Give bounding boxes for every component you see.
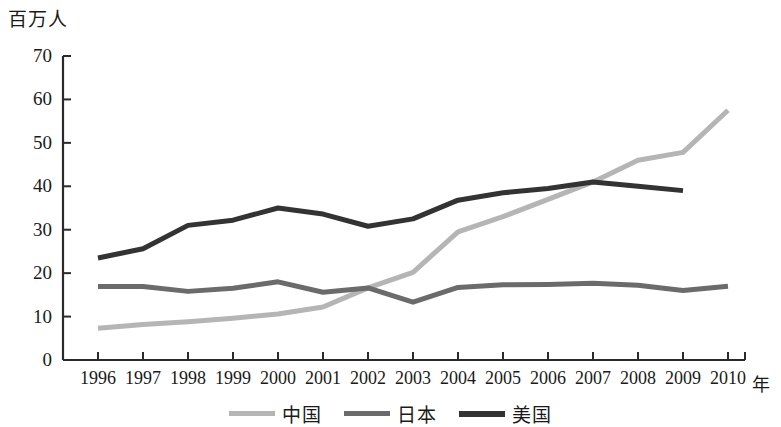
- legend-label: 日本: [397, 400, 437, 427]
- legend-swatch-icon: [459, 411, 505, 417]
- x-axis-tick-label: 2002: [345, 368, 391, 389]
- x-axis-tick-label: 2004: [435, 368, 481, 389]
- x-axis-tick-label: 1998: [165, 368, 211, 389]
- legend-item: 日本: [344, 400, 437, 427]
- y-axis-tick-label: 60: [8, 88, 52, 110]
- x-axis-tick-label: 1999: [210, 368, 256, 389]
- y-axis-tick-label: 0: [8, 349, 52, 371]
- x-axis-tick-label: 2005: [480, 368, 526, 389]
- x-axis-tick-label: 2009: [660, 368, 706, 389]
- x-axis-tick-label: 1997: [120, 368, 166, 389]
- x-axis-tick-label: 2007: [570, 368, 616, 389]
- plot-area: [0, 0, 781, 427]
- chart-legend: 中国日本美国: [0, 400, 781, 427]
- line-chart: 百万人 年 010203040506070 199619971998199920…: [0, 0, 781, 427]
- x-axis-tick-label: 2001: [300, 368, 346, 389]
- y-axis-tick-label: 50: [8, 132, 52, 154]
- y-axis-tick-label: 30: [8, 219, 52, 241]
- series-line-日本: [98, 282, 728, 302]
- x-axis-tick-label: 1996: [75, 368, 121, 389]
- x-axis-tick-label: 2008: [615, 368, 661, 389]
- series-line-美国: [98, 182, 683, 258]
- legend-item: 美国: [459, 400, 552, 427]
- y-axis-tick-label: 70: [8, 45, 52, 67]
- x-axis-tick-label: 2003: [390, 368, 436, 389]
- legend-label: 中国: [282, 400, 322, 427]
- x-axis-tick-label: 2000: [255, 368, 301, 389]
- x-axis-tick-label: 2010: [705, 368, 751, 389]
- y-axis-tick-label: 10: [8, 306, 52, 328]
- plot-svg: [0, 0, 781, 427]
- x-axis-tick-label: 2006: [525, 368, 571, 389]
- legend-swatch-icon: [229, 411, 275, 416]
- y-axis-tick-label: 20: [8, 262, 52, 284]
- legend-swatch-icon: [344, 411, 390, 416]
- y-axis-tick-label: 40: [8, 175, 52, 197]
- legend-label: 美国: [512, 400, 552, 427]
- legend-item: 中国: [229, 400, 322, 427]
